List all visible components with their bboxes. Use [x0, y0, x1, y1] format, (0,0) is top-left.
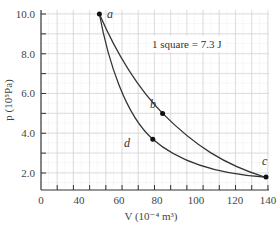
x-tick-100: 100 [188, 194, 205, 206]
label-b: b [150, 97, 156, 111]
x-tick-0: 0 [38, 194, 44, 206]
point-b [160, 111, 165, 116]
x-tick-80: 80 [152, 194, 164, 206]
point-d [150, 137, 155, 142]
x-tick-140: 140 [260, 194, 277, 206]
x-axis-title: V (10⁻⁴ m³) [124, 210, 177, 223]
scale-note: 1 square = 7.3 J [152, 38, 222, 50]
point-c [264, 175, 269, 180]
label-c: c [262, 154, 268, 168]
pv-chart: 10.0 8.0 6.0 4.0 2.0 0 40 60 80 100 120 … [0, 0, 280, 225]
label-d: d [124, 136, 131, 150]
y-tick-10: 10.0 [16, 8, 36, 20]
x-tick-60: 60 [114, 194, 126, 206]
y-axis-title: p (10⁵Pa) [2, 79, 15, 121]
y-tick-2: 2.0 [21, 167, 35, 179]
point-a [97, 12, 102, 17]
y-tick-labels: 10.0 8.0 6.0 4.0 2.0 [16, 8, 36, 179]
y-tick-6: 6.0 [21, 87, 35, 99]
y-tick-4: 4.0 [21, 127, 35, 139]
x-tick-labels: 0 40 60 80 100 120 140 [38, 194, 277, 206]
x-tick-40: 40 [74, 194, 86, 206]
y-tick-8: 8.0 [21, 48, 35, 60]
x-tick-120: 120 [227, 194, 244, 206]
label-a: a [107, 7, 113, 21]
